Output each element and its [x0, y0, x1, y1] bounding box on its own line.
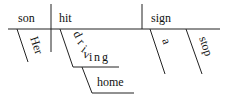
subject-word: son — [18, 11, 35, 25]
object-modifier-2-line — [186, 29, 202, 74]
subject-modifier-word: Her — [27, 34, 46, 56]
gerund-modifier-slant-line — [82, 67, 92, 93]
object-word: sign — [151, 11, 171, 25]
verb-word: hit — [59, 11, 72, 25]
gerund-letter-g: g — [102, 50, 108, 64]
gerund-letter-i2: i — [89, 50, 93, 64]
sentence-diagram: son hit sign Her d r i v i n g home a st… — [0, 0, 232, 104]
gerund-letter-n: n — [94, 50, 100, 64]
object-modifier-1-line — [150, 29, 165, 74]
object-modifier-1-word: a — [159, 36, 174, 46]
object-modifier-2-word: stop — [196, 34, 216, 57]
subject-modifier-line — [17, 29, 28, 62]
gerund-modifier-word: home — [97, 75, 124, 89]
